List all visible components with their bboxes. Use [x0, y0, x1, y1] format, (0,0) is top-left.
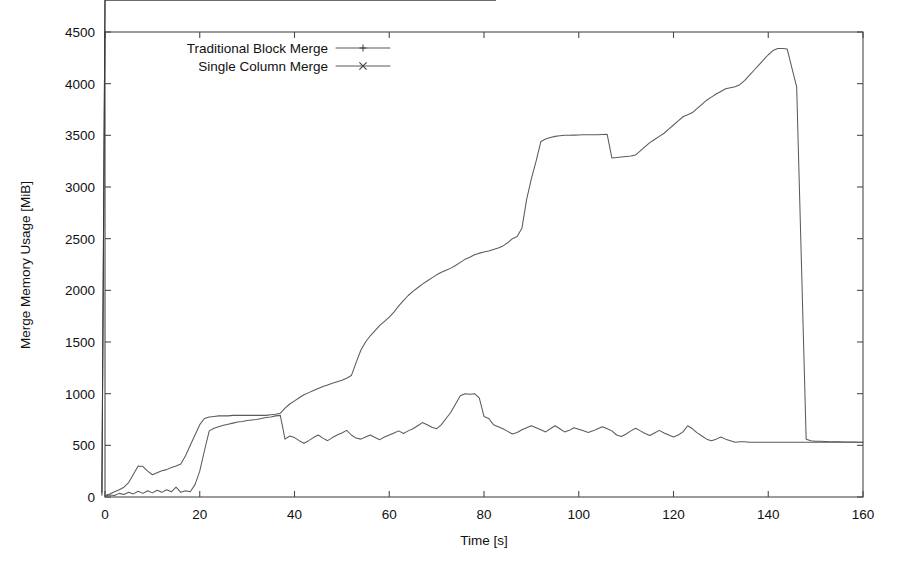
x-tick-label: 160 — [852, 507, 875, 522]
plot-canvas: 020406080100120140160 050010001500200025… — [0, 0, 903, 574]
x-tick-label: 120 — [662, 507, 685, 522]
y-axis-title: Merge Memory Usage [MiB] — [18, 181, 33, 349]
x-tick-label: 100 — [567, 507, 590, 522]
y-tick-label: 1000 — [65, 387, 95, 402]
x-tick-label: 80 — [476, 507, 491, 522]
x-tick-label: 20 — [192, 507, 207, 522]
x-axis-tick-labels: 020406080100120140160 — [101, 507, 874, 522]
y-tick-label: 3500 — [65, 128, 95, 143]
legend-label: Traditional Block Merge — [187, 41, 328, 56]
series-markers — [102, 0, 496, 496]
x-axis-title: Time [s] — [460, 533, 508, 548]
series-single-column-merge — [102, 0, 863, 496]
x-tick-label: 40 — [287, 507, 302, 522]
x-tick-label: 60 — [382, 507, 397, 522]
chart-legend: Traditional Block MergeSingle Column Mer… — [187, 41, 390, 74]
x-tick-label: 140 — [757, 507, 780, 522]
series-line — [105, 49, 863, 496]
y-tick-label: 1500 — [65, 335, 95, 350]
y-tick-label: 500 — [72, 438, 95, 453]
legend-sample-marker — [359, 44, 366, 51]
series-line — [105, 394, 863, 496]
y-tick-label: 2000 — [65, 283, 95, 298]
series-traditional-block-merge — [102, 0, 863, 495]
y-tick-label: 3000 — [65, 180, 95, 195]
y-axis-tick-labels: 050010001500200025003000350040004500 — [65, 25, 95, 505]
data-series-group — [102, 0, 863, 496]
y-tick-label: 0 — [87, 490, 95, 505]
y-tick-label: 2500 — [65, 232, 95, 247]
x-tick-label: 0 — [101, 507, 109, 522]
legend-label: Single Column Merge — [198, 59, 328, 74]
y-tick-label: 4500 — [65, 25, 95, 40]
y-tick-label: 4000 — [65, 77, 95, 92]
chart-figure: 020406080100120140160 050010001500200025… — [0, 0, 903, 574]
